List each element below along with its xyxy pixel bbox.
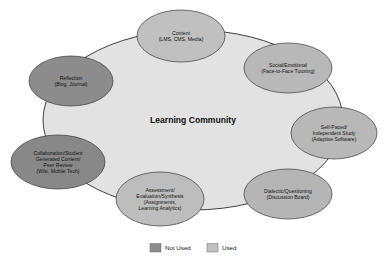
- legend: Not UsedUsed: [150, 244, 237, 253]
- node-assessment-line-3: Learning Analytics): [138, 205, 181, 211]
- node-social-emotional[interactable]: Social/Emotional(Face-to-Face Tutoring): [244, 43, 332, 93]
- node-collaboration-line-1: Generated Content/: [36, 156, 81, 162]
- node-content-line-1: (LMS, CMS, Media): [159, 36, 204, 42]
- node-social-emotional-line-1: (Face-to-Face Tutoring): [261, 68, 315, 74]
- node-content-line-0: Content: [172, 30, 190, 36]
- node-assessment-line-1: Evaluation/Synthesis: [136, 193, 184, 199]
- node-reflection-line-1: (Blog, Journal): [54, 81, 87, 87]
- node-reflection[interactable]: Reflection(Blog, Journal): [29, 56, 113, 106]
- diagram-canvas: Learning Community Content(LMS, CMS, Med…: [0, 0, 386, 270]
- node-dialectic-line-0: Dialectic/Questioning: [264, 188, 312, 194]
- node-collaboration[interactable]: Collaboration/StudentGenerated Content/P…: [11, 135, 105, 189]
- node-self-paced-line-0: Self-Paced/: [321, 124, 348, 130]
- node-dialectic-line-1: (Discussion Board): [266, 194, 309, 200]
- node-collaboration-line-3: (Wiki, Mobile Tech): [37, 168, 80, 174]
- legend-item-not-used: Not Used: [150, 244, 191, 253]
- learning-community-figure: Learning Community Content(LMS, CMS, Med…: [0, 0, 386, 270]
- node-self-paced-line-1: Independent Study: [313, 130, 356, 136]
- node-content[interactable]: Content(LMS, CMS, Media): [137, 10, 225, 62]
- node-self-paced-line-2: (Adaptive Software): [312, 136, 357, 142]
- learning-community-label: Learning Community: [150, 115, 236, 125]
- legend-swatch-0: [150, 244, 161, 253]
- node-assessment-line-2: (Assignments,: [144, 199, 176, 205]
- legend-label-1: Used: [222, 244, 237, 251]
- legend-label-0: Not Used: [165, 244, 191, 251]
- node-assessment[interactable]: Assessment/Evaluation/Synthesis(Assignme…: [116, 172, 204, 226]
- node-dialectic-label: Dialectic/Questioning(Discussion Board): [264, 188, 312, 200]
- node-social-emotional-line-0: Social/Emotional: [269, 62, 307, 68]
- node-collaboration-line-0: Collaboration/Student: [34, 150, 84, 156]
- node-social-emotional-label: Social/Emotional(Face-to-Face Tutoring): [261, 62, 315, 74]
- node-self-paced[interactable]: Self-Paced/Independent Study(Adaptive So…: [291, 107, 377, 159]
- node-reflection-line-0: Reflection: [60, 75, 83, 81]
- legend-swatch-1: [207, 244, 218, 253]
- node-dialectic[interactable]: Dialectic/Questioning(Discussion Board): [244, 169, 332, 219]
- node-collaboration-line-2: Peer Review: [44, 162, 73, 168]
- legend-item-used: Used: [207, 244, 237, 253]
- node-assessment-line-0: Assessment/: [145, 187, 175, 193]
